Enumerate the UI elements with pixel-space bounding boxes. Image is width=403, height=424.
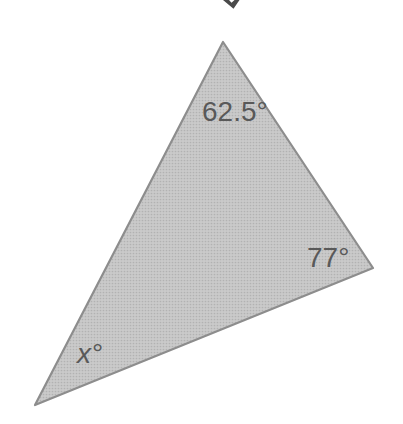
angle-label-bottom-left: x° xyxy=(77,340,102,368)
angle-label-top: 62.5° xyxy=(202,98,268,126)
triangle-diagram-svg xyxy=(0,0,403,424)
diagram-canvas: 62.5° 77° x° xyxy=(0,0,403,424)
angle-label-right: 77° xyxy=(307,244,349,272)
cropped-chevron-artifact xyxy=(223,0,240,9)
